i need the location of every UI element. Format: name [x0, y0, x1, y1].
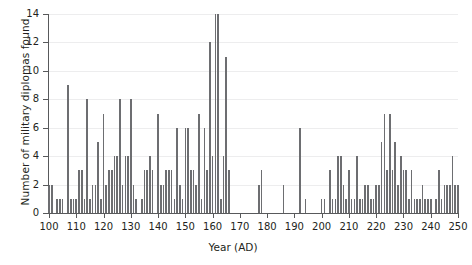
bar: [157, 114, 159, 214]
x-axis-tick: [431, 213, 432, 218]
bar: [414, 199, 416, 213]
bar: [105, 185, 107, 213]
bar: [392, 170, 394, 213]
bar: [394, 142, 396, 213]
y-axis-tick-label: 12: [0, 37, 39, 47]
bar: [114, 156, 116, 213]
x-axis-tick: [213, 213, 214, 218]
bar: [160, 185, 162, 213]
bar: [84, 199, 86, 213]
bar: [165, 170, 167, 213]
bar: [400, 156, 402, 213]
x-axis-tick: [294, 213, 295, 218]
gridline: [49, 14, 458, 15]
bar: [452, 156, 454, 213]
bar: [122, 185, 124, 213]
bar: [373, 199, 375, 213]
bar: [92, 185, 94, 213]
bar: [343, 185, 345, 213]
bar: [321, 199, 323, 213]
bar: [135, 199, 137, 213]
bar: [283, 185, 285, 213]
bar: [335, 199, 337, 213]
x-axis-tick: [458, 213, 459, 218]
bar: [95, 185, 97, 213]
bar: [212, 156, 214, 213]
bar: [457, 185, 459, 213]
bar: [397, 185, 399, 213]
bar: [133, 185, 135, 213]
bar: [89, 199, 91, 213]
bar: [378, 185, 380, 213]
bar: [176, 128, 178, 213]
y-axis-tick-label: 0: [0, 208, 39, 218]
bar: [70, 199, 72, 213]
bar: [144, 170, 146, 213]
y-axis-tick: [43, 42, 49, 43]
bar: [332, 199, 334, 213]
bar: [381, 142, 383, 213]
bar: [435, 199, 437, 213]
bar: [305, 199, 307, 213]
bar: [206, 170, 208, 213]
bar: [225, 57, 227, 213]
bar: [67, 85, 69, 213]
bar: [405, 170, 407, 213]
bar: [403, 170, 405, 213]
bar: [204, 128, 206, 213]
gridline: [49, 42, 458, 43]
bar: [438, 170, 440, 213]
bar: [370, 199, 372, 213]
x-axis-tick: [240, 213, 241, 218]
x-axis-tick: [131, 213, 132, 218]
bar: [449, 185, 451, 213]
bar: [73, 199, 75, 213]
bar: [182, 199, 184, 213]
bar: [193, 170, 195, 213]
bar: [364, 185, 366, 213]
bar: [97, 142, 99, 213]
bar: [340, 156, 342, 213]
y-axis-tick: [43, 71, 49, 72]
bar: [195, 185, 197, 213]
bar: [108, 170, 110, 213]
bar: [86, 99, 88, 213]
y-axis-tick-label: 8: [0, 94, 39, 104]
gridline: [49, 99, 458, 100]
bar: [441, 199, 443, 213]
gridline: [49, 156, 458, 157]
bar: [356, 156, 358, 213]
bar: [299, 128, 301, 213]
bar: [228, 170, 230, 213]
bar: [62, 199, 64, 213]
x-axis-tick: [104, 213, 105, 218]
y-axis-tick: [43, 99, 49, 100]
x-axis-tick: [185, 213, 186, 218]
x-axis-tick: [403, 213, 404, 218]
bar: [187, 128, 189, 213]
bar: [430, 199, 432, 213]
bar: [329, 170, 331, 213]
bar: [174, 199, 176, 213]
bar: [258, 185, 260, 213]
x-axis-tick: [49, 213, 50, 218]
gridline: [49, 71, 458, 72]
x-axis-tick: [322, 213, 323, 218]
bar: [220, 199, 222, 213]
bar: [198, 114, 200, 214]
bar: [185, 128, 187, 213]
bar: [179, 185, 181, 213]
y-axis-tick-label: 14: [0, 9, 39, 19]
bar: [141, 199, 143, 213]
y-axis-tick: [43, 14, 49, 15]
bar: [362, 199, 364, 213]
bar: [51, 185, 53, 213]
x-axis-tick: [267, 213, 268, 218]
bar: [163, 185, 165, 213]
bar: [424, 199, 426, 213]
y-axis-tick: [43, 128, 49, 129]
bar: [171, 170, 173, 213]
bar: [190, 170, 192, 213]
bar: [125, 156, 127, 213]
